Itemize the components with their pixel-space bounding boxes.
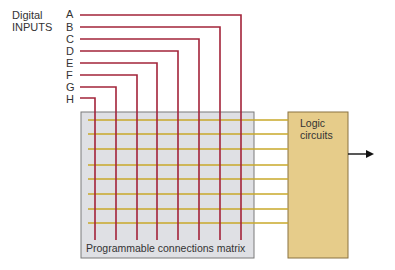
matrix-label: Programmable connections matrix [86, 242, 245, 254]
output-arrow-icon [348, 150, 374, 158]
logic-label-line-1: Logic [300, 117, 333, 129]
wiring-diagram [0, 0, 395, 270]
logic-circuits-label: Logic circuits [300, 117, 333, 141]
logic-label-line-2: circuits [300, 129, 333, 141]
